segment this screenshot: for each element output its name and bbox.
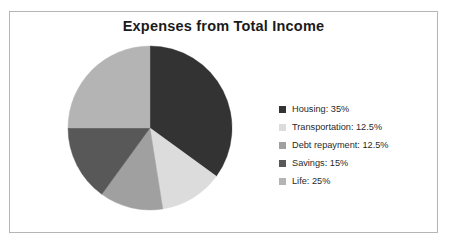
legend-item-label: Debt repayment: 12.5% <box>292 140 389 151</box>
pie-slice <box>68 46 150 128</box>
legend-item: Debt repayment: 12.5% <box>279 136 429 154</box>
legend-swatch-icon <box>279 160 286 167</box>
legend-swatch-icon <box>279 124 286 131</box>
legend-swatch-icon <box>279 178 286 185</box>
chart-title: Expenses from Total Income <box>10 18 437 35</box>
legend-swatch-icon <box>279 106 286 113</box>
pie-svg <box>67 45 233 211</box>
legend-item: Savings: 15% <box>279 154 429 172</box>
legend-swatch-icon <box>279 142 286 149</box>
chart-legend: Housing: 35% Transportation: 12.5% Debt … <box>279 100 429 190</box>
chart-frame: Expenses from Total Income Housing: 35% … <box>9 11 438 233</box>
pie-chart <box>67 45 233 211</box>
legend-item-label: Savings: 15% <box>292 158 348 169</box>
legend-item-label: Transportation: 12.5% <box>292 122 382 133</box>
legend-item: Housing: 35% <box>279 100 429 118</box>
legend-item-label: Housing: 35% <box>292 104 349 115</box>
legend-item: Transportation: 12.5% <box>279 118 429 136</box>
legend-item-label: Life: 25% <box>292 176 330 187</box>
legend-item: Life: 25% <box>279 172 429 190</box>
